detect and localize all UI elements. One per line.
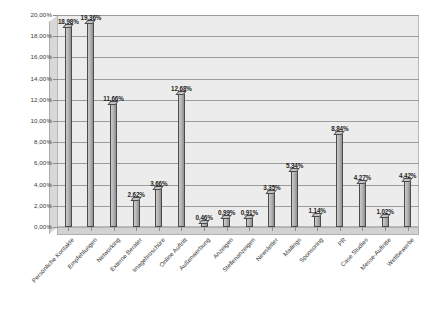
bar[interactable]: 1,14%: [314, 215, 321, 227]
y-axis-tick: [53, 227, 58, 228]
y-axis-tick-label: 2,00%: [0, 202, 52, 209]
bar[interactable]: 4,27%: [359, 182, 366, 227]
bar-value-label: 5,34%: [286, 162, 303, 169]
bar[interactable]: 1,02%: [382, 216, 389, 227]
bar-value-label: 1,02%: [376, 208, 393, 215]
bar-slot: 3,66%: [148, 15, 171, 227]
x-axis-category-label: Persönliche Kontakte: [30, 236, 75, 284]
bar-slot: 0,99%: [215, 15, 238, 227]
bar-slot: 19,36%: [80, 15, 103, 227]
x-axis-tick: [249, 227, 250, 231]
x-axis-tick: [272, 227, 273, 231]
bar[interactable]: 4,42%: [404, 180, 411, 227]
y-axis-tick-label: 20,00%: [0, 11, 52, 18]
bar[interactable]: 2,62%: [133, 199, 140, 227]
x-axis-tick: [385, 227, 386, 231]
bar[interactable]: 8,84%: [336, 133, 343, 227]
y-axis-tick-label: 6,00%: [0, 159, 52, 166]
y-axis-tick-label: 12,00%: [0, 96, 52, 103]
bar-slot: 3,35%: [261, 15, 284, 227]
x-axis-tick: [68, 227, 69, 231]
bar-slot: 5,34%: [283, 15, 306, 227]
bar-slot: 8,84%: [329, 15, 352, 227]
y-axis-tick-label: 4,00%: [0, 181, 52, 188]
bar-slot: 1,02%: [374, 15, 397, 227]
bar-series: 18,98%19,36%11,66%2,62%3,66%12,68%0,46%0…: [57, 15, 419, 227]
x-axis-tick: [204, 227, 205, 231]
bar[interactable]: 0,91%: [246, 217, 253, 227]
bar-slot: 18,98%: [57, 15, 80, 227]
bar[interactable]: 12,68%: [178, 93, 185, 227]
bar-slot: 4,27%: [351, 15, 374, 227]
bar-value-label: 19,36%: [81, 14, 102, 21]
bar-value-label: 4,42%: [399, 172, 416, 179]
bar[interactable]: 11,66%: [110, 103, 117, 227]
y-axis-tick-label: 18,00%: [0, 32, 52, 39]
bar-value-label: 0,91%: [241, 209, 258, 216]
y-axis-tick-label: 8,00%: [0, 138, 52, 145]
x-axis-category-label: Mailings: [281, 236, 302, 257]
y-axis-tick-label: 14,00%: [0, 75, 52, 82]
bar-value-label: 2,62%: [128, 191, 145, 198]
x-axis-tick: [295, 227, 296, 231]
x-axis-tick: [181, 227, 182, 231]
y-axis-tick-label: 0,00%: [0, 223, 52, 230]
bar-value-label: 11,66%: [103, 95, 123, 102]
bar[interactable]: 19,36%: [87, 22, 94, 227]
bar-value-label: 0,99%: [218, 209, 235, 216]
bar[interactable]: 3,35%: [268, 192, 275, 228]
x-axis-labels: Persönliche KontakteEmpfehlungenNetworki…: [57, 236, 419, 310]
bar-value-label: 8,84%: [331, 125, 348, 132]
bar-slot: 1,14%: [306, 15, 329, 227]
bar[interactable]: 18,98%: [65, 26, 72, 227]
x-axis-tick: [114, 227, 115, 231]
bar-value-label: 18,98%: [58, 18, 79, 25]
x-axis-tick: [340, 227, 341, 231]
x-axis-tick: [362, 227, 363, 231]
x-axis-category-label: PR: [336, 236, 347, 247]
bar-slot: 0,46%: [193, 15, 216, 227]
x-axis-tick: [317, 227, 318, 231]
bar[interactable]: 3,66%: [155, 188, 162, 227]
bar-slot: 2,62%: [125, 15, 148, 227]
bar[interactable]: 0,99%: [223, 217, 230, 227]
bar-value-label: 3,66%: [150, 180, 167, 187]
x-axis-tick: [136, 227, 137, 231]
bar-value-label: 3,35%: [263, 184, 280, 191]
x-axis-category-label: Newsletter: [254, 236, 279, 262]
bar-value-label: 0,46%: [195, 214, 212, 221]
y-axis-tick-label: 16,00%: [0, 53, 52, 60]
bar-slot: 12,68%: [170, 15, 193, 227]
x-axis-tick: [408, 227, 409, 231]
bar-value-label: 4,27%: [354, 174, 371, 181]
bar-value-label: 12,68%: [171, 85, 192, 92]
bar-value-label: 1,14%: [309, 207, 326, 214]
bar-slot: 11,66%: [102, 15, 125, 227]
chart-floor: [57, 227, 419, 235]
y-axis-tick-label: 10,00%: [0, 117, 52, 124]
x-axis-tick: [227, 227, 228, 231]
x-axis-tick: [91, 227, 92, 231]
bar-slot: 4,42%: [396, 15, 419, 227]
x-axis-tick: [159, 227, 160, 231]
bar-slot: 0,91%: [238, 15, 261, 227]
bar-chart: 20,00%18,00%16,00%14,00%12,00%10,00%8,00…: [0, 0, 428, 310]
bar[interactable]: 5,34%: [291, 170, 298, 227]
